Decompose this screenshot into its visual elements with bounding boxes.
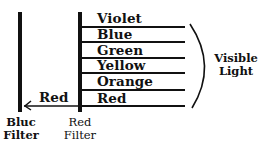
band-label-orange: Orange — [97, 74, 153, 88]
filter-diagram: Violet Blue Green Yellow Orange Red Red … — [0, 0, 261, 144]
band-label-red: Red — [97, 91, 127, 105]
visible-light-label: Visible Light — [212, 52, 260, 78]
red-filter-line2: Filter — [61, 129, 99, 142]
blue-filter-caption: Bluc Filter — [2, 116, 40, 142]
band-label-blue: Blue — [97, 27, 132, 41]
red-filter-caption: Red Filter — [61, 116, 99, 142]
transmitted-red-label: Red — [39, 90, 69, 104]
band-label-violet: Violet — [97, 11, 142, 25]
band-label-yellow: Yellow — [97, 58, 146, 72]
blue-filter-line2: Filter — [2, 129, 40, 142]
visible-light-bracket — [190, 24, 205, 108]
blue-filter-bar — [18, 12, 22, 112]
band-label-green: Green — [97, 43, 143, 57]
visible-light-line2: Light — [212, 65, 260, 78]
